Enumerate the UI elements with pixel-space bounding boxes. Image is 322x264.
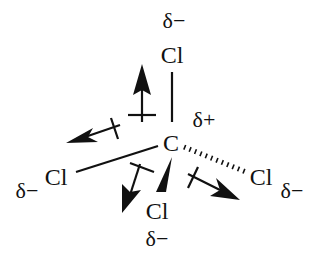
charge-top-cl: δ− bbox=[163, 8, 186, 33]
atom-cl-left: Cl bbox=[45, 164, 68, 190]
dipole-arrow-down-right bbox=[188, 167, 240, 200]
dipole-arrow-up bbox=[128, 64, 156, 122]
atom-c-central: C bbox=[163, 130, 179, 156]
charge-left-cl: δ− bbox=[16, 178, 39, 203]
atom-cl-bottom: Cl bbox=[146, 198, 169, 224]
charge-bottom-cl: δ− bbox=[146, 226, 169, 251]
ccl4-dipole-diagram: δ− Cl δ+ C Cl δ− Cl δ− Cl δ− bbox=[0, 0, 322, 264]
atom-cl-top: Cl bbox=[161, 42, 184, 68]
charge-right-cl: δ− bbox=[281, 178, 304, 203]
atom-cl-right: Cl bbox=[250, 164, 273, 190]
charge-central-c: δ+ bbox=[193, 107, 216, 132]
bond-c-cl-bottom-wedge bbox=[156, 157, 172, 192]
dipole-arrow-left bbox=[66, 118, 120, 143]
bond-c-cl-right-hashed bbox=[184, 147, 246, 172]
